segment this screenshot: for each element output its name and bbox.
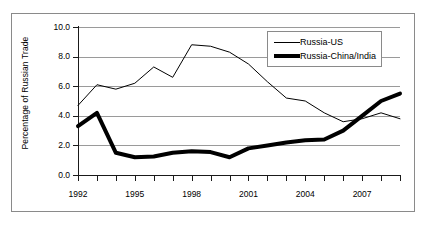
legend-label-russia-china-india: Russia-China/India [300,52,376,61]
legend-line-swatch-thin-icon [272,36,300,48]
legend-label-russia-us: Russia-US [300,38,343,47]
legend-line-swatch-thick-icon [272,50,300,62]
legend-item-russia-us: Russia-US [272,35,376,49]
chart-figure: Percentage of Russian Trade 0.02.04.06.0… [0,0,426,232]
chart-legend: Russia-US Russia-China/India [267,31,382,67]
series-line-russia-china-india [78,94,400,158]
legend-item-russia-china-india: Russia-China/India [272,49,376,63]
